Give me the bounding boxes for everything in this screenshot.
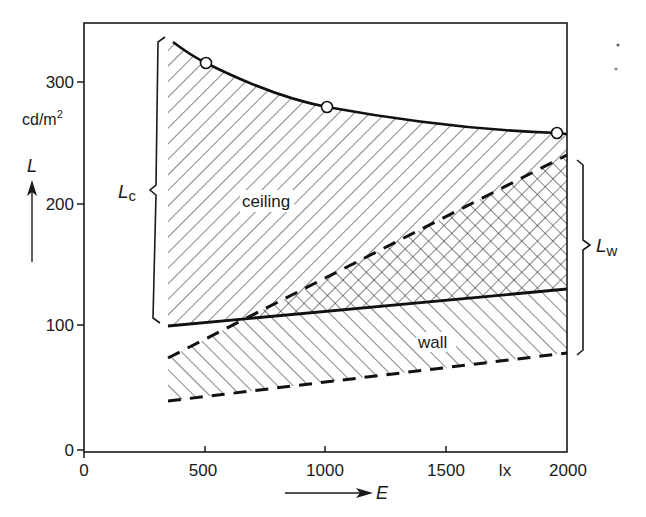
lw-brace <box>577 160 590 355</box>
x-var-label: E <box>376 483 389 503</box>
y-tick-200: 200 <box>46 195 74 214</box>
x-tick-1500: 1500 <box>427 461 465 480</box>
y-unit-label: cd/m2 <box>22 108 63 128</box>
y-var-label: L <box>27 156 37 176</box>
x-tick-1000: 1000 <box>306 461 344 480</box>
y-tick-100: 100 <box>46 316 74 335</box>
y-tick-300: 300 <box>46 73 74 92</box>
x-tick-0: 0 <box>79 461 88 480</box>
x-tick-500: 500 <box>189 461 217 480</box>
stray-dot <box>616 43 619 46</box>
wall-label: wall <box>417 333 447 352</box>
lc-label: Lc <box>118 181 137 204</box>
data-point-1950 <box>552 128 563 139</box>
y-tick-0: 0 <box>65 441 74 460</box>
y-axis-ticks <box>77 82 84 450</box>
ceiling-label: ceiling <box>242 192 290 211</box>
luminance-chart: 0 100 200 300 0 500 1000 1500 2000 lx E … <box>0 0 646 517</box>
lw-label: Lw <box>596 235 618 259</box>
data-point-500 <box>201 58 212 69</box>
x-unit-label: lx <box>499 461 512 480</box>
x-tick-2000: 2000 <box>549 461 587 480</box>
lc-brace <box>150 37 165 323</box>
stray-dot <box>614 67 617 70</box>
data-point-1000 <box>322 102 333 113</box>
